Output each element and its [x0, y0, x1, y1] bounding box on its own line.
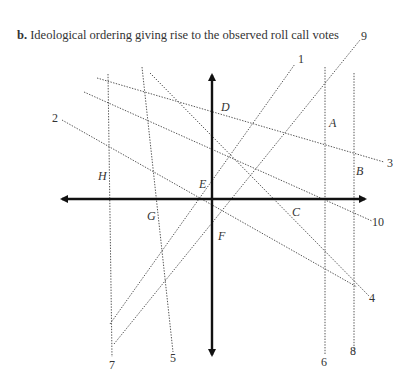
- ideological-space-diagram: 12345678910 ABCDEFGH: [0, 0, 413, 382]
- cutting-line-4: [150, 73, 369, 296]
- line-labels-group: 12345678910: [52, 29, 393, 372]
- cutting-line-label-2: 2: [52, 111, 58, 125]
- legislator-point-G: G: [147, 209, 156, 223]
- cutting-line-3: [97, 78, 384, 162]
- cutting-line-2: [62, 120, 357, 287]
- legislator-point-H: H: [97, 169, 108, 183]
- legislator-point-C: C: [292, 205, 301, 219]
- cutting-line-1: [110, 64, 295, 324]
- axes-group: [62, 75, 365, 355]
- cutting-line-label-5: 5: [170, 351, 176, 365]
- cutting-line-7: [108, 74, 112, 357]
- legislator-point-A: A: [328, 116, 337, 130]
- cutting-line-label-10: 10: [372, 215, 384, 229]
- cutting-line-label-4: 4: [369, 291, 375, 305]
- cutting-line-label-9: 9: [361, 29, 367, 43]
- cutting-line-label-8: 8: [350, 344, 356, 358]
- cutting-line-9: [114, 40, 360, 344]
- legislator-points-group: ABCDEFGH: [97, 100, 364, 243]
- legislator-point-B: B: [356, 164, 364, 178]
- legislator-point-E: E: [198, 177, 207, 191]
- cutting-line-label-1: 1: [298, 52, 304, 66]
- cutting-line-label-3: 3: [387, 156, 393, 170]
- legislator-point-F: F: [217, 229, 226, 243]
- cutting-line-label-6: 6: [321, 355, 327, 369]
- legislator-point-D: D: [220, 100, 230, 114]
- cutting-line-label-7: 7: [109, 358, 115, 372]
